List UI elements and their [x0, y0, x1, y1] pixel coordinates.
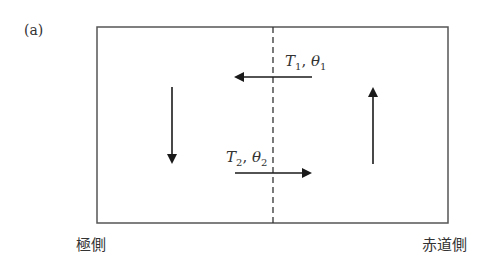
- upper-flow-label: T1, θ1: [285, 52, 326, 72]
- circulation-diagram: [0, 0, 499, 269]
- pole-side-label: 極側: [76, 233, 106, 254]
- lower-flow-label: T2, θ2: [226, 148, 267, 168]
- frame-box: [97, 27, 448, 223]
- equator-side-label: 赤道側: [422, 233, 467, 254]
- panel-label: (a): [24, 22, 43, 38]
